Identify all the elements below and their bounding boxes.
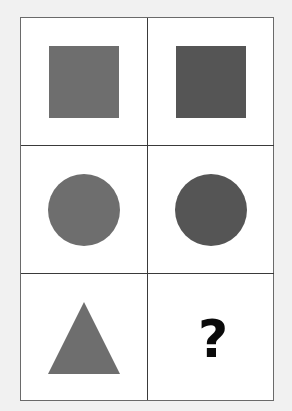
cell-r3-c2-missing[interactable]: ?	[148, 274, 274, 400]
cell-r1-c1	[21, 18, 148, 146]
cell-r2-c2	[148, 146, 274, 274]
square-dark-shape	[176, 46, 246, 118]
triangle-light-shape	[48, 302, 120, 374]
circle-dark-shape	[175, 174, 247, 246]
cell-r3-c1	[21, 274, 148, 400]
puzzle-grid: ?	[20, 17, 274, 401]
square-light-shape	[49, 46, 119, 118]
cell-r2-c1	[21, 146, 148, 274]
cell-r1-c2	[148, 18, 274, 146]
question-mark: ?	[198, 313, 228, 365]
circle-light-shape	[48, 174, 120, 246]
